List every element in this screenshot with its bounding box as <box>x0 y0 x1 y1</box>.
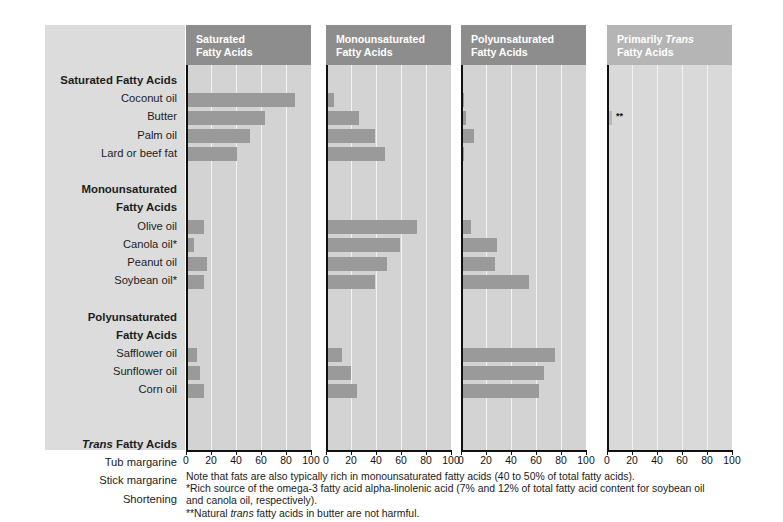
plot-area-monounsaturated <box>326 65 451 450</box>
axis-tick-label: 60 <box>255 455 267 466</box>
bar-monounsaturated-sunflower-oil <box>326 366 351 380</box>
gridline <box>426 65 427 450</box>
axis-tick-label: 20 <box>626 455 638 466</box>
bar-saturated-soybean-oil <box>186 275 204 289</box>
panel-header-saturated: SaturatedFatty Acids <box>186 25 311 65</box>
group-heading: Fatty Acids <box>45 329 177 341</box>
bar-monounsaturated-lard-or-beef-fat <box>326 147 385 161</box>
row-label-sunflower-oil: Sunflower oil <box>45 365 177 377</box>
axis-tick-label: 100 <box>442 455 459 466</box>
bar-saturated-butter <box>186 111 265 125</box>
bar-saturated-peanut-oil <box>186 257 207 271</box>
plot-area-trans: ** <box>607 65 732 450</box>
bar-footnote-marker: ** <box>616 112 623 121</box>
panel-header-trans: Primarily TransFatty Acids <box>607 25 732 65</box>
axis-tick-label: 60 <box>530 455 542 466</box>
axis-rule <box>326 450 451 452</box>
bar-monounsaturated-butter <box>326 111 359 125</box>
bar-monounsaturated-olive-oil <box>326 220 417 234</box>
row-label-stick-margarine: Stick margarine <box>45 474 177 486</box>
bar-monounsaturated-peanut-oil <box>326 257 387 271</box>
panel-axis-spine <box>607 65 609 450</box>
axis-tick-label: 0 <box>183 455 189 466</box>
panel-header-polyunsaturated: PolyunsaturatedFatty Acids <box>461 25 586 65</box>
panel-header-line2: Fatty Acids <box>196 46 253 58</box>
gridline <box>632 65 633 450</box>
panel-axis-spine <box>326 65 328 450</box>
axis-tick-label: 20 <box>205 455 217 466</box>
panel-header-line2: Fatty Acids <box>336 46 393 58</box>
bar-monounsaturated-safflower-oil <box>326 348 342 362</box>
row-label-lard-or-beef-fat: Lard or beef fat <box>45 147 177 159</box>
plot-area-saturated <box>186 65 311 450</box>
footnote-line-3: and canola oil, respectively). <box>186 495 781 507</box>
plot-area-polyunsaturated <box>461 65 586 450</box>
x-axis-polyunsaturated: 020406080100 <box>461 450 586 470</box>
bar-polyunsaturated-canola-oil <box>461 238 497 252</box>
bar-polyunsaturated-safflower-oil <box>461 348 555 362</box>
row-label-peanut-oil: Peanut oil <box>45 256 177 268</box>
footnotes-block: Note that fats are also typically rich i… <box>186 471 781 520</box>
x-axis-monounsaturated: 020406080100 <box>326 450 451 470</box>
axis-tick-label: 40 <box>651 455 663 466</box>
gridline <box>707 65 708 450</box>
gridline <box>682 65 683 450</box>
panel-header-line1: Saturated <box>196 33 245 45</box>
row-label-soybean-oil: Soybean oil* <box>45 274 177 286</box>
axis-tick-label: 0 <box>604 455 610 466</box>
axis-tick-label: 40 <box>230 455 242 466</box>
panel-monounsaturated: MonounsaturatedFatty Acids <box>326 25 451 450</box>
axis-tick-label: 100 <box>723 455 740 466</box>
axis-tick-label: 20 <box>480 455 492 466</box>
panel-header-line2: Fatty Acids <box>617 46 674 58</box>
bar-monounsaturated-soybean-oil <box>326 275 375 289</box>
panel-trans: Primarily TransFatty Acids** <box>607 25 732 450</box>
axis-tick-label: 60 <box>395 455 407 466</box>
bar-saturated-olive-oil <box>186 220 204 234</box>
axis-tick-label: 40 <box>370 455 382 466</box>
axis-rule <box>607 450 732 452</box>
panel-header-line1: Polyunsaturated <box>471 33 554 45</box>
row-label-olive-oil: Olive oil <box>45 220 177 232</box>
x-axis-trans: 020406080100 <box>607 450 732 470</box>
row-label-column: Saturated Fatty AcidsCoconut oilButterPa… <box>45 25 185 450</box>
bar-saturated-palm-oil <box>186 129 250 143</box>
bar-polyunsaturated-sunflower-oil <box>461 366 544 380</box>
row-label-safflower-oil: Safflower oil <box>45 347 177 359</box>
bar-polyunsaturated-corn-oil <box>461 384 539 398</box>
axis-tick-label: 80 <box>701 455 713 466</box>
group-heading: Fatty Acids <box>45 201 177 213</box>
bar-saturated-safflower-oil <box>186 348 197 362</box>
bar-saturated-corn-oil <box>186 384 204 398</box>
bar-saturated-coconut-oil <box>186 93 295 107</box>
axis-tick-label: 20 <box>345 455 357 466</box>
panel-header-line2: Fatty Acids <box>471 46 528 58</box>
panel-saturated: SaturatedFatty Acids <box>186 25 311 450</box>
axis-tick-label: 100 <box>302 455 319 466</box>
gridline <box>561 65 562 450</box>
row-label-corn-oil: Corn oil <box>45 383 177 395</box>
row-label-palm-oil: Palm oil <box>45 129 177 141</box>
group-heading-text: Fatty Acids <box>113 438 177 450</box>
bar-polyunsaturated-peanut-oil <box>461 257 495 271</box>
group-heading: Polyunsaturated <box>45 311 177 323</box>
bar-monounsaturated-palm-oil <box>326 129 375 143</box>
axis-rule <box>186 450 311 452</box>
bar-polyunsaturated-soybean-oil <box>461 275 529 289</box>
footnote-4-post: fatty acids in butter are not harmful. <box>254 508 420 519</box>
panel-header-italic: Trans <box>665 33 694 45</box>
axis-tick-label: 80 <box>280 455 292 466</box>
group-heading: Trans Fatty Acids <box>45 438 177 450</box>
axis-tick-label: 100 <box>577 455 594 466</box>
row-label-canola-oil: Canola oil* <box>45 238 177 250</box>
panel-axis-spine <box>461 65 463 450</box>
group-heading: Monounsaturated <box>45 183 177 195</box>
footnote-line-4: **Natural trans fatty acids in butter ar… <box>186 508 781 520</box>
row-label-tub-margarine: Tub margarine <box>45 456 177 468</box>
axis-tick-label: 80 <box>420 455 432 466</box>
panel-axis-spine <box>186 65 188 450</box>
footnote-line-1: Note that fats are also typically rich i… <box>186 471 781 483</box>
row-label-butter: Butter <box>45 110 177 122</box>
panel-polyunsaturated: PolyunsaturatedFatty Acids <box>461 25 586 450</box>
panel-header-text: Primarily <box>617 33 665 45</box>
